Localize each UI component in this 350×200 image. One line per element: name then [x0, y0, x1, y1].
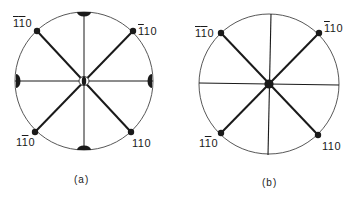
pole-dot-a-tl	[34, 28, 40, 34]
label-a-top-left: 110	[13, 17, 32, 29]
label-digit: 0	[334, 140, 341, 152]
pole-dot-b-tr	[316, 30, 322, 36]
pole-dot-b-bl	[218, 130, 224, 136]
pole-dot-a-br	[128, 129, 134, 135]
label-a-top-right: 110	[138, 25, 157, 37]
stereogram-figure	[0, 0, 350, 200]
pole-dot-a-bl	[32, 129, 38, 135]
rim-marker-right-a	[148, 74, 153, 88]
label-digit: 0	[28, 136, 35, 148]
caption-b: (b)	[262, 177, 277, 188]
stereogram-b	[199, 14, 339, 155]
label-digit: 0	[336, 22, 343, 34]
label-b-top-left: 110	[195, 27, 214, 39]
pole-dot-b-br	[315, 132, 321, 138]
rim-marker-left-a	[16, 74, 21, 88]
label-b-bottom-left: 110	[199, 137, 218, 149]
rim-marker-bottom-a	[77, 146, 91, 151]
center-marker-core-a	[82, 77, 86, 86]
label-digit: 0	[211, 137, 218, 149]
caption-a: (a)	[74, 174, 89, 185]
label-b-bottom-right: 110	[322, 140, 341, 152]
stereogram-a	[15, 12, 153, 150]
pole-dot-a-tr	[130, 28, 136, 34]
label-digit: 0	[25, 17, 32, 29]
label-a-bottom-right: 110	[132, 137, 151, 149]
center-marker-b	[264, 79, 273, 88]
pole-dot-b-tl	[218, 30, 224, 36]
label-digit: 0	[144, 137, 151, 149]
label-digit: 0	[207, 27, 214, 39]
rim-marker-top-a	[77, 12, 91, 17]
label-digit: 0	[150, 25, 157, 37]
label-a-bottom-left: 110	[16, 136, 35, 148]
label-b-top-right: 110	[324, 22, 343, 34]
